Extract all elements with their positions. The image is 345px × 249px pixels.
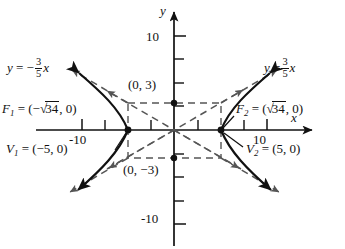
- covertex-bottom-label: (0, −3): [123, 163, 159, 176]
- asymptote-right-label: y =35x: [264, 57, 295, 79]
- focus-left-subscript: 1: [10, 108, 14, 118]
- point-covertex-bottom: [171, 155, 177, 161]
- asymptote-left-eq: = −: [16, 60, 34, 75]
- vertex-left-subscript: 1: [14, 148, 18, 158]
- vertex-right-eq: = (5, 0): [262, 141, 301, 156]
- asymptote-left-label: y = −35x: [7, 57, 49, 79]
- focus-left-eq: = (−: [18, 101, 40, 116]
- vertex-left-eq: = (−5, 0): [22, 141, 68, 156]
- asymptote-right-lhs: y: [264, 60, 270, 75]
- focus-left-label: F1 = (−√34, 0): [2, 101, 77, 118]
- focus-right-subscript: 2: [244, 108, 248, 118]
- focus-left-radicand: 34: [45, 101, 59, 115]
- focus-left-name: F: [2, 101, 10, 116]
- focus-right-radicand: 34: [272, 101, 286, 115]
- tick-label-y-neg10: -10: [141, 211, 158, 227]
- covertex-top-label: (0, 3): [128, 78, 156, 91]
- asymptote-right-eq: =: [273, 60, 280, 75]
- asymptote-left-fraction: 35: [35, 57, 42, 79]
- focus-left-tail: , 0): [59, 101, 76, 116]
- asymptote-left-lhs: y: [7, 60, 13, 75]
- point-covertex-top: [171, 100, 177, 106]
- focus-right-name: F: [236, 101, 244, 116]
- tick-label-x-neg10: -10: [69, 133, 86, 146]
- vertex-right-subscript: 2: [254, 148, 258, 158]
- vertex-left-label: V1 = (−5, 0): [6, 142, 68, 158]
- axis-y: [174, 12, 186, 246]
- axis-y-label: y: [160, 4, 166, 17]
- asymptote-right-var: x: [290, 60, 296, 75]
- axis-x-label: x: [291, 111, 297, 124]
- focus-right-eq: = (: [252, 101, 267, 116]
- vertex-left-name: V: [6, 141, 14, 156]
- asymptote-left-var: x: [43, 60, 49, 75]
- tick-label-y-10: 10: [146, 30, 159, 43]
- asymptote-right-fraction: 35: [281, 57, 288, 79]
- tick-label-x-10: 10: [253, 133, 266, 146]
- point-vertex-left: [125, 127, 132, 134]
